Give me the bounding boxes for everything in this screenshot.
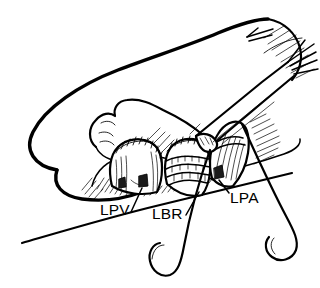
label-lpa: LPA	[230, 189, 259, 206]
label-lpv: LPV	[100, 201, 130, 218]
figure-background	[0, 0, 320, 288]
surgical-illustration-figure: LPV LBR LPA	[0, 0, 320, 288]
illustration-canvas: LPV LBR LPA	[0, 0, 320, 288]
artery-ostium	[214, 165, 224, 179]
ostium-left	[119, 177, 126, 188]
label-lbr: LBR	[152, 205, 183, 222]
ostium-right	[139, 174, 148, 187]
